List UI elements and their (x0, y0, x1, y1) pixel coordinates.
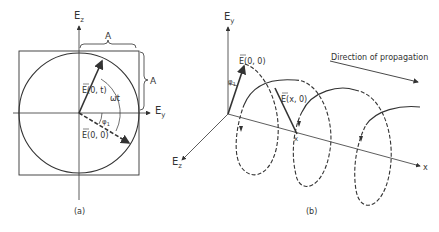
label-ez: Ez (74, 10, 84, 24)
ez-axis-b (182, 114, 228, 160)
vector-e00-b (228, 66, 244, 114)
label-e0t: E(0, t) (82, 86, 107, 95)
label-propagation: Direction of propagation (331, 53, 428, 62)
label-e00-b: E(0, 0) (239, 57, 266, 66)
label-point-x: x (294, 135, 298, 143)
label-x-axis: x (423, 163, 428, 172)
label-phi1-b: φ1 (228, 78, 236, 87)
propagation-arrow (330, 61, 418, 82)
polarization-diagram: Ez Ey A A E(0, t) E(0, 0) ωt φ1 (a) (0, 0, 439, 232)
panel-a: Ez Ey A A E(0, t) E(0, 0) ωt φ1 (a) (13, 10, 165, 216)
label-phi1: φ1 (102, 118, 110, 127)
caption-a: (a) (74, 207, 85, 216)
label-a-right: A (150, 76, 157, 86)
helix (236, 64, 420, 205)
panel-b: Ey Ez x E(0, 0) E(x, 0) x φ1 Direction o… (172, 11, 428, 216)
label-ey: Ey (155, 105, 165, 119)
label-e00: E(0, 0) (82, 131, 109, 140)
brace-top (80, 40, 136, 48)
caption-b: (b) (306, 207, 317, 216)
label-ey-b: Ey (224, 11, 234, 25)
label-wt: ωt (110, 94, 120, 103)
helix-arrow-1 (239, 126, 243, 132)
label-ez-b: Ez (172, 156, 182, 170)
brace-right (140, 52, 148, 110)
label-ex0: E(x, 0) (281, 95, 307, 104)
label-a-top: A (105, 31, 112, 41)
x-axis-b (228, 114, 420, 166)
